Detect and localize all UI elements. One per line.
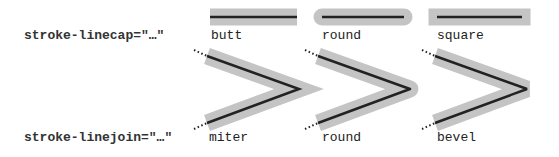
stroke-diagram: stroke-linecap="…" butt round square str… bbox=[0, 0, 559, 157]
linejoin-round-example: round bbox=[305, 50, 410, 145]
linejoin-row-label: stroke-linejoin="…" bbox=[24, 130, 172, 145]
linecap-round-example: round bbox=[322, 17, 404, 43]
linecap-square-label: square bbox=[437, 28, 484, 43]
linecap-butt-label: butt bbox=[211, 28, 242, 43]
linejoin-miter-example: miter bbox=[194, 50, 299, 145]
linecap-square-example: square bbox=[437, 17, 522, 43]
linecap-round-label: round bbox=[322, 28, 361, 43]
linejoin-miter-label: miter bbox=[209, 130, 248, 145]
linejoin-bevel-example: bevel bbox=[422, 50, 527, 145]
linecap-butt-example: butt bbox=[210, 17, 297, 43]
linejoin-bevel-label: bevel bbox=[437, 130, 476, 145]
linecap-row-label: stroke-linecap="…" bbox=[24, 28, 164, 43]
linejoin-round-label: round bbox=[322, 130, 361, 145]
